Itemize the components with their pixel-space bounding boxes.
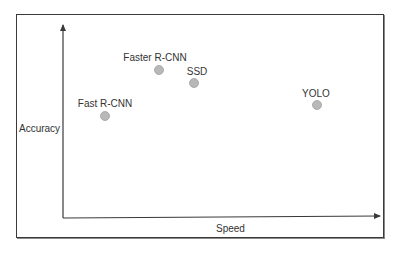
data-point-fast-r-cnn [101, 112, 110, 121]
point-label-faster-rcnn: Faster R-CNN [123, 53, 186, 63]
y-axis-label: Accuracy [19, 124, 60, 134]
point-label-fast-rcnn: Fast R-CNN [78, 99, 132, 109]
x-axis [63, 216, 380, 218]
point-label-ssd: SSD [187, 67, 208, 77]
x-axis-label: Speed [216, 224, 245, 234]
data-point-yolo [313, 101, 322, 110]
data-point-faster-r-cnn [155, 66, 164, 75]
point-label-yolo: YOLO [302, 89, 330, 99]
data-point-ssd [190, 79, 199, 88]
